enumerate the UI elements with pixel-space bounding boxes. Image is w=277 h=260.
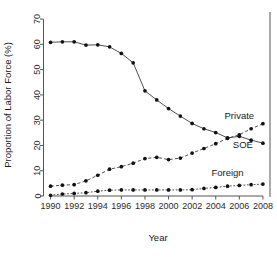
- data-point-soe: [226, 137, 230, 141]
- y-tick-label: 10: [33, 166, 43, 176]
- y-axis-title: Proportion of Labor Force (%): [2, 42, 13, 168]
- x-tick-label: 1998: [135, 201, 155, 211]
- data-point-soe: [178, 156, 182, 160]
- data-point-foreign: [61, 192, 65, 196]
- data-point-foreign: [72, 192, 76, 196]
- data-point-private: [202, 127, 206, 131]
- data-point-private: [131, 61, 135, 65]
- data-point-private: [155, 98, 159, 102]
- data-point-soe: [61, 183, 65, 187]
- data-point-foreign: [202, 187, 206, 191]
- y-tick-label: 40: [33, 90, 43, 100]
- x-tick-label: 1990: [41, 201, 61, 211]
- data-point-foreign: [214, 186, 218, 190]
- data-point-private: [72, 40, 76, 44]
- data-point-foreign: [226, 184, 230, 188]
- series-label-soe: SOE: [233, 139, 253, 150]
- y-tick-label: 60: [33, 39, 43, 49]
- x-tick-label: 1994: [88, 201, 108, 211]
- data-point-private: [261, 141, 265, 145]
- data-point-private: [61, 40, 65, 44]
- y-tick-label: 30: [33, 115, 43, 125]
- series-label-foreign: Foreign: [211, 167, 243, 178]
- data-point-soe: [155, 155, 159, 159]
- data-point-private: [96, 43, 100, 47]
- x-tick-label: 1992: [64, 201, 84, 211]
- data-point-private: [108, 45, 112, 49]
- x-tick-label: 2004: [206, 201, 226, 211]
- data-point-foreign: [84, 191, 88, 195]
- data-point-foreign: [190, 188, 194, 192]
- data-point-private: [190, 122, 194, 126]
- data-point-private: [178, 114, 182, 118]
- data-point-soe: [237, 133, 241, 137]
- data-point-private: [84, 43, 88, 47]
- data-point-foreign: [131, 188, 135, 192]
- plot-background: [0, 0, 277, 260]
- data-point-foreign: [261, 182, 265, 186]
- data-point-foreign: [96, 189, 100, 193]
- data-point-foreign: [249, 183, 253, 187]
- data-point-private: [167, 107, 171, 111]
- data-point-private: [49, 40, 53, 44]
- chart-figure: 010203040506070 199019921994199619982000…: [0, 0, 277, 260]
- data-point-soe: [96, 173, 100, 177]
- x-axis-title: Year: [148, 232, 167, 243]
- data-point-soe: [49, 184, 53, 188]
- data-point-soe: [84, 179, 88, 183]
- x-tick-label: 2006: [229, 201, 249, 211]
- series-label-private: Private: [225, 110, 255, 121]
- data-point-soe: [108, 167, 112, 171]
- x-tick-label: 2008: [253, 201, 273, 211]
- data-point-foreign: [120, 188, 124, 192]
- data-point-soe: [190, 151, 194, 155]
- data-point-soe: [131, 161, 135, 165]
- data-point-foreign: [155, 188, 159, 192]
- data-point-soe: [249, 127, 253, 131]
- data-point-foreign: [49, 193, 53, 197]
- y-tick-label: 0: [33, 193, 43, 198]
- data-point-foreign: [108, 188, 112, 192]
- data-point-soe: [143, 157, 147, 161]
- data-point-foreign: [178, 188, 182, 192]
- data-point-soe: [167, 158, 171, 162]
- data-point-soe: [261, 122, 265, 126]
- x-tick-label: 2000: [159, 201, 179, 211]
- data-point-soe: [72, 183, 76, 187]
- x-tick-label: 1996: [111, 201, 131, 211]
- y-tick-label: 50: [33, 65, 43, 75]
- data-point-foreign: [237, 184, 241, 188]
- x-tick-label: 2002: [182, 201, 202, 211]
- data-point-private: [143, 89, 147, 93]
- data-point-private: [120, 52, 124, 56]
- y-tick-label: 20: [33, 140, 43, 150]
- data-point-soe: [202, 147, 206, 151]
- data-point-soe: [214, 142, 218, 146]
- data-point-private: [214, 131, 218, 135]
- data-point-foreign: [143, 188, 147, 192]
- y-tick-label: 70: [33, 14, 43, 24]
- data-point-soe: [120, 165, 124, 169]
- data-point-foreign: [167, 188, 171, 192]
- labor-force-line-chart: 010203040506070 199019921994199619982000…: [0, 0, 277, 260]
